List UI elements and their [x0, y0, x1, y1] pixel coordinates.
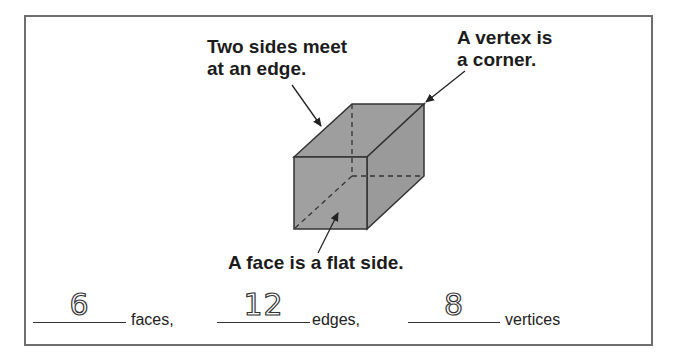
edges-answer[interactable]: 12: [217, 290, 310, 320]
answer-row: 6 faces, 12 edges, 8 vertices: [0, 0, 677, 358]
edges-blank[interactable]: [217, 322, 310, 323]
vertices-blank[interactable]: [408, 322, 500, 323]
edges-unit: edges,: [312, 311, 360, 329]
faces-unit: faces,: [131, 311, 174, 329]
vertices-answer[interactable]: 8: [408, 290, 500, 320]
faces-blank[interactable]: [33, 322, 126, 323]
faces-answer[interactable]: 6: [33, 290, 126, 320]
vertices-unit: vertices: [505, 311, 560, 329]
